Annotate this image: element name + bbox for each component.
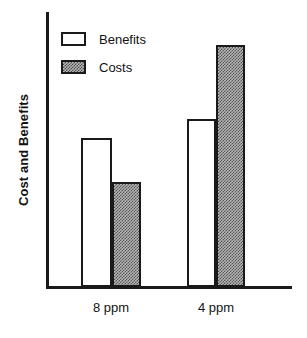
bar-chart-figure: Cost and Benefits Benefits Costs 8 ppm 4…: [0, 0, 307, 338]
plot-area: [49, 12, 292, 287]
bar-benefits-8ppm: [81, 138, 112, 287]
bar-costs-8ppm: [112, 182, 141, 287]
y-axis-title: Cost and Benefits: [12, 12, 34, 288]
bar-costs-4ppm: [216, 45, 245, 287]
x-tick-label-4ppm: 4 ppm: [176, 300, 256, 315]
x-tick-label-8ppm: 8 ppm: [71, 300, 151, 315]
bar-benefits-4ppm: [187, 119, 216, 287]
